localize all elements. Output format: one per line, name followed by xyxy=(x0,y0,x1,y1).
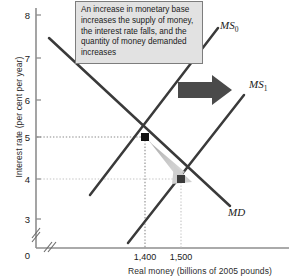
monetary-base-note: An increase in monetary base increases t… xyxy=(75,1,203,64)
initial-equilibrium-marker xyxy=(141,133,149,141)
y-axis-label: Interest rate (per cent per year) xyxy=(14,42,24,192)
money-market-figure: Interest rate (per cent per year) Real m… xyxy=(0,0,291,279)
y-tick-6: 6 xyxy=(14,95,30,106)
y-tick-5: 5 xyxy=(14,132,30,143)
curve-label-ms0-text: MS xyxy=(220,19,235,31)
supply-shift-arrow xyxy=(178,75,232,105)
curve-label-ms1-text: MS xyxy=(249,78,264,90)
x-tick-1500: 1,500 xyxy=(160,252,202,262)
curve-label-ms1-sub: 1 xyxy=(264,84,268,93)
curve-label-ms0: MS0 xyxy=(220,19,238,34)
equilibrium-movement-arrow xyxy=(146,137,192,184)
y-tick-0: 0 xyxy=(14,250,30,261)
x-axis-label: Real money (billions of 2005 pounds) xyxy=(128,266,272,276)
curve-label-ms0-sub: 0 xyxy=(235,25,239,34)
new-equilibrium-marker xyxy=(177,175,185,183)
curve-label-ms1: MS1 xyxy=(249,78,267,93)
y-tick-3: 3 xyxy=(14,214,30,225)
curve-label-md: MD xyxy=(228,206,245,218)
y-tick-7: 7 xyxy=(14,53,30,64)
y-tick-8: 8 xyxy=(14,10,30,21)
y-tick-4: 4 xyxy=(14,174,30,185)
